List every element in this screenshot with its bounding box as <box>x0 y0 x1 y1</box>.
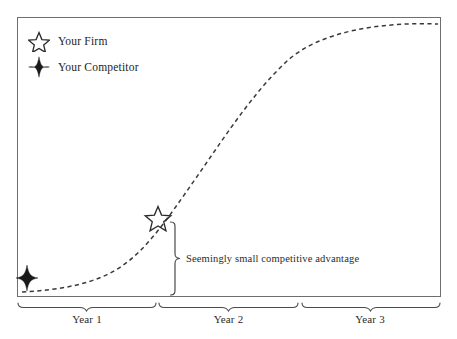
competitive-advantage-annotation: Seemingly small competitive advantage <box>186 253 359 264</box>
filled-four-point-star-icon <box>26 55 52 79</box>
chart-legend: Your Firm Your Competitor <box>26 28 206 80</box>
legend-item-your-competitor: Your Competitor <box>26 54 206 80</box>
period-label-year-1: Year 1 <box>17 313 157 325</box>
legend-item-your-firm: Your Firm <box>26 28 206 54</box>
s-curve-figure: Your Firm Your Competitor Seemingly smal… <box>0 0 457 339</box>
period-braces <box>18 303 440 311</box>
period-label-year-2: Year 2 <box>157 313 300 325</box>
period-brace-year-3 <box>302 303 440 311</box>
legend-label-your-competitor: Your Competitor <box>58 61 139 73</box>
legend-label-your-firm: Your Firm <box>58 35 108 47</box>
period-brace-year-2 <box>159 303 298 311</box>
period-brace-year-1 <box>18 303 156 311</box>
period-label-year-3: Year 3 <box>300 313 440 325</box>
hollow-five-point-star-icon <box>26 29 52 53</box>
